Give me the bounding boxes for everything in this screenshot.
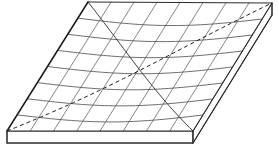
plate-diagram	[0, 0, 279, 155]
plate-front-face	[7, 131, 193, 143]
figure-root	[0, 0, 279, 155]
